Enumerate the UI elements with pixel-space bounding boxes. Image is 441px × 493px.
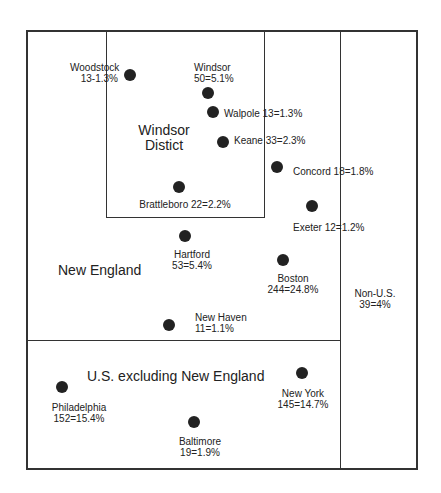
location-label-windsor: Windsor 50=5.1% [194, 62, 234, 84]
location-label-concord: Concord 18=1.8% [293, 166, 373, 177]
location-label-philadelphia: Philadelphia 152=15.4% [52, 402, 107, 424]
region-label-us-excluding-ne: U.S. excluding New England [87, 369, 264, 384]
location-label-brattleboro: Brattleboro 22=2.2% [139, 199, 230, 210]
location-dot-new-york [296, 367, 308, 379]
location-dot-windsor [202, 87, 214, 99]
location-label-baltimore: Baltimore 19=1.9% [179, 436, 221, 458]
location-dot-woodstock [124, 69, 136, 81]
non-us-divider [340, 30, 341, 470]
location-dot-baltimore [188, 416, 200, 428]
location-dot-hartford [179, 230, 191, 242]
location-dot-keane [217, 136, 229, 148]
location-dot-philadelphia [56, 381, 68, 393]
location-label-woodstock: Woodstock 13-1.3% [70, 62, 118, 84]
location-dot-concord [271, 161, 283, 173]
location-label-new-york: New York 145=14.7% [278, 388, 329, 410]
region-label-new-england: New England [58, 263, 141, 278]
location-label-boston: Boston 244=24.8% [268, 273, 319, 295]
region-label-windsor-district: Windsor Distict [138, 123, 189, 153]
location-label-walpole: Walpole 13=1.3% [224, 108, 302, 119]
location-label-new-haven: New Haven 11=1.1% [195, 312, 247, 334]
location-label-hartford: Hartford 53=5.4% [172, 249, 212, 271]
region-label-non-us: Non-U.S. 39=4% [354, 288, 395, 310]
us-divider [26, 340, 341, 341]
location-dot-new-haven [163, 319, 175, 331]
location-dot-boston [277, 254, 289, 266]
location-dot-walpole [207, 106, 219, 118]
location-dot-brattleboro [173, 181, 185, 193]
location-label-exeter: Exeter 12=1.2% [293, 222, 364, 233]
location-label-keane: Keane 33=2.3% [234, 135, 305, 146]
location-dot-exeter [306, 200, 318, 212]
